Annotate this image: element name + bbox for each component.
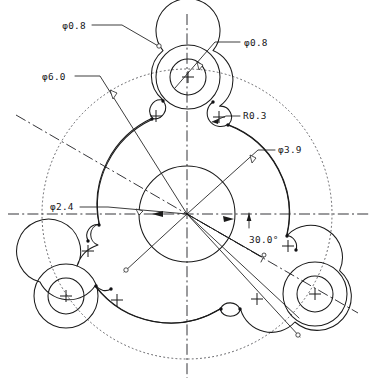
tangent-dot	[109, 287, 112, 290]
lower-right-spoke-arrow	[296, 333, 300, 337]
dim-label-dia-2-4: φ2.4	[50, 201, 74, 212]
web-arc-lower	[96, 287, 221, 323]
dimension-labels-group: φ0.8 φ0.8 φ6.0 R0.3 φ3.9 φ2.4 30.0°	[42, 20, 302, 245]
tangent-dot	[150, 117, 153, 120]
fillet-right-lower	[221, 303, 241, 309]
tangent-dot	[94, 284, 97, 287]
center-mark	[282, 240, 294, 252]
tangent-dot	[285, 234, 288, 237]
tangent-dot	[294, 248, 297, 251]
dim-label-angle-30: 30.0°	[249, 234, 279, 245]
tangent-point-dots	[86, 99, 297, 310]
tangent-dot	[86, 239, 89, 242]
leader-dia-0-8-left	[92, 25, 161, 48]
fillet-left-upper	[87, 225, 99, 241]
tangent-dot	[238, 307, 241, 310]
cad-drawing-canvas: φ0.8 φ0.8 φ6.0 R0.3 φ3.9 φ2.4 30.0°	[0, 0, 377, 388]
lower-left-spoke-arrow	[124, 268, 128, 272]
dim-label-dia-6-0: φ6.0	[42, 71, 66, 82]
leader-dia-3-9	[187, 150, 275, 214]
technical-drawing-page: φ0.8 φ0.8 φ6.0 R0.3 φ3.9 φ2.4 30.0°	[0, 0, 377, 388]
web-arc-upper-right	[228, 125, 289, 236]
leader-dia-6-0	[75, 76, 187, 214]
dim-label-dia-3-9: φ3.9	[278, 144, 302, 155]
radial-spokes-group	[124, 214, 300, 337]
tangent-dot	[161, 99, 164, 102]
dim-label-dia-0-8-left: φ0.8	[62, 20, 86, 31]
tangent-dot	[219, 307, 222, 310]
part-outline-group	[17, 0, 352, 332]
dim-label-dia-0-8-right: φ0.8	[244, 37, 268, 48]
tangent-dot	[211, 100, 214, 103]
web-arc-upper	[97, 120, 152, 226]
dim-label-rad-0-3: R0.3	[243, 110, 267, 121]
tangent-dot	[226, 123, 229, 126]
center-mark	[309, 288, 321, 300]
tangent-dot	[97, 223, 100, 226]
leader-dia-0-8-right	[175, 42, 240, 88]
